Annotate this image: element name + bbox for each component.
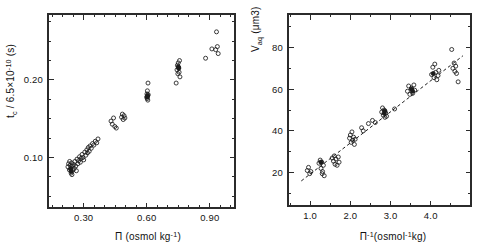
data-point-filled <box>383 109 387 113</box>
data-point <box>337 160 341 164</box>
right-tick-labels: 1.02.03.04.020406080 <box>272 42 438 221</box>
right-data-points <box>305 47 460 177</box>
data-point <box>174 81 178 85</box>
left-axes-frame <box>48 14 235 208</box>
data-point-filled <box>145 93 149 97</box>
data-point <box>435 78 439 82</box>
left-plot-svg: 0.300.600.900.100.20 tc / 6.5×10-10 (s) … <box>0 0 243 250</box>
left-tick-labels: 0.300.600.900.100.20 <box>24 74 220 223</box>
regression-line <box>301 56 463 181</box>
right-plot-svg: 1.02.03.04.020406080 Vaq (μm3) Π-1(osmol… <box>243 0 487 250</box>
data-point <box>366 122 370 126</box>
data-point-filled <box>69 169 73 173</box>
y-tick-label: 60 <box>272 84 283 95</box>
x-tick-label: 2.0 <box>343 210 357 221</box>
y-tick-label: 80 <box>272 42 283 53</box>
data-point <box>437 68 441 72</box>
data-point-filled <box>431 71 435 75</box>
x-tick-label: 3.0 <box>384 210 398 221</box>
left-axis-ticks <box>48 14 235 208</box>
data-point <box>216 52 220 56</box>
data-point <box>210 47 214 51</box>
data-point <box>352 142 356 146</box>
data-point <box>215 30 219 34</box>
right-axis-ticks <box>288 14 471 206</box>
x-tick-label: 4.0 <box>424 210 438 221</box>
data-point-filled <box>319 160 323 164</box>
right-y-axis-title: Vaq (μm3) <box>250 6 264 52</box>
data-point <box>178 75 182 79</box>
chart-panel-right: 1.02.03.04.020406080 Vaq (μm3) Π-1(osmol… <box>243 0 486 250</box>
data-point <box>436 74 440 78</box>
y-tick-label: 0.20 <box>24 74 43 85</box>
x-tick-label: 0.30 <box>74 212 93 223</box>
data-point-filled <box>177 66 181 70</box>
right-fit-line <box>301 56 463 181</box>
right-axes-frame <box>288 14 471 206</box>
x-tick-label: 1.0 <box>303 210 317 221</box>
data-point <box>433 62 437 66</box>
y-tick-label: 0.10 <box>24 152 43 163</box>
data-point-filled <box>411 89 415 93</box>
figure-root: 0.300.600.900.100.20 tc / 6.5×10-10 (s) … <box>0 0 487 250</box>
data-point <box>146 81 150 85</box>
y-tick-label: 20 <box>272 167 283 178</box>
left-x-axis-title: Π (osmol kg-1) <box>115 230 181 243</box>
x-tick-label: 0.60 <box>137 212 156 223</box>
chart-panel-left: 0.300.600.900.100.20 tc / 6.5×10-10 (s) … <box>0 0 243 250</box>
data-point <box>112 116 116 120</box>
right-x-axis-title: Π-1(osmol-1kg) <box>360 230 427 243</box>
left-y-axis-title: tc / 6.5×10-10 (s) <box>4 44 19 118</box>
y-tick-label: 40 <box>272 125 283 136</box>
data-point <box>412 83 416 87</box>
data-point <box>204 56 208 60</box>
data-point <box>450 47 454 51</box>
x-tick-label: 0.90 <box>200 212 219 223</box>
data-point <box>456 80 460 84</box>
left-data-points <box>66 30 220 177</box>
data-point <box>96 137 100 141</box>
